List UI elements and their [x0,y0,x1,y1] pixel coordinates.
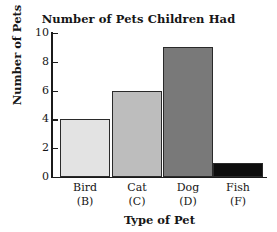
x-category-bird: Bird(B) [60,181,110,209]
y-tick-label: 8 [42,55,49,68]
plot-area [52,33,267,177]
y-tick-label: 4 [42,112,49,125]
bar-dog [163,47,213,177]
x-category-name: Fish [213,181,263,195]
y-axis-title: Number of Pets [10,0,24,110]
x-category-fish: Fish(F) [213,181,263,209]
x-category-name: Dog [163,181,213,195]
y-tick-mark [53,177,58,178]
x-category-cat: Cat(C) [112,181,162,209]
bar-fish [213,163,263,177]
x-axis-title: Type of Pet [52,213,267,227]
chart-title: Number of Pets Children Had [0,12,277,26]
x-category-dog: Dog(D) [163,181,213,209]
x-category-code: (B) [60,195,110,209]
bar-bird [60,119,110,177]
x-category-code: (F) [213,195,263,209]
x-category-name: Cat [112,181,162,195]
x-category-name: Bird [60,181,110,195]
y-tick-label: 10 [35,26,49,39]
x-category-code: (C) [112,195,162,209]
y-tick-label: 6 [42,84,49,97]
bar-cat [112,91,162,177]
y-tick-label: 2 [42,141,49,154]
y-tick-label: 0 [42,170,49,183]
bar-chart: Number of Pets Children Had Number of Pe… [0,0,277,232]
x-category-code: (D) [163,195,213,209]
